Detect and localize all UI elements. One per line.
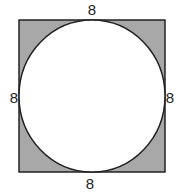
- circle-shape: [19, 20, 165, 172]
- label-bottom: 8: [86, 175, 94, 192]
- inscribed-circle-diagram: 8 8 8 8: [0, 0, 179, 196]
- label-right: 8: [166, 89, 174, 106]
- label-top: 8: [88, 1, 96, 18]
- label-left: 8: [10, 89, 18, 106]
